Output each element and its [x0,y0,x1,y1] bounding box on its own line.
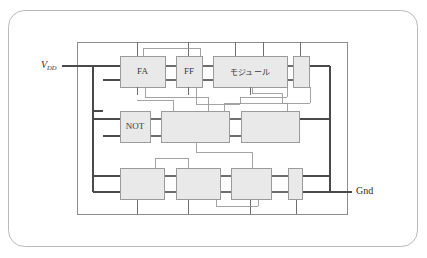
block-label-not: NOT [126,121,145,131]
gnd-rail-label: Gnd [356,185,373,196]
circuit-block-diagram: VDDGndFAFFモジュールNOT [0,0,427,258]
block-bot-right[interactable] [289,169,303,200]
block-mid-b[interactable] [242,112,300,143]
figure-canvas: VDDGndFAFFモジュールNOT [0,0,427,258]
block-bot-c[interactable] [232,169,272,200]
block-mid-a[interactable] [162,112,230,143]
block-top-right[interactable] [294,57,310,88]
block-label-fa: FA [137,66,148,76]
block-bot-a[interactable] [121,169,165,200]
block-bot-b[interactable] [177,169,221,200]
block-label-module: モジュール [230,68,271,77]
block-label-ff: FF [184,66,194,76]
